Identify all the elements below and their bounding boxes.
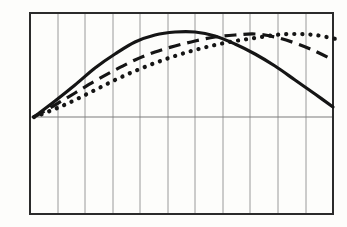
chart-figure: 4	[0, 0, 347, 227]
chart-canvas	[0, 0, 347, 227]
